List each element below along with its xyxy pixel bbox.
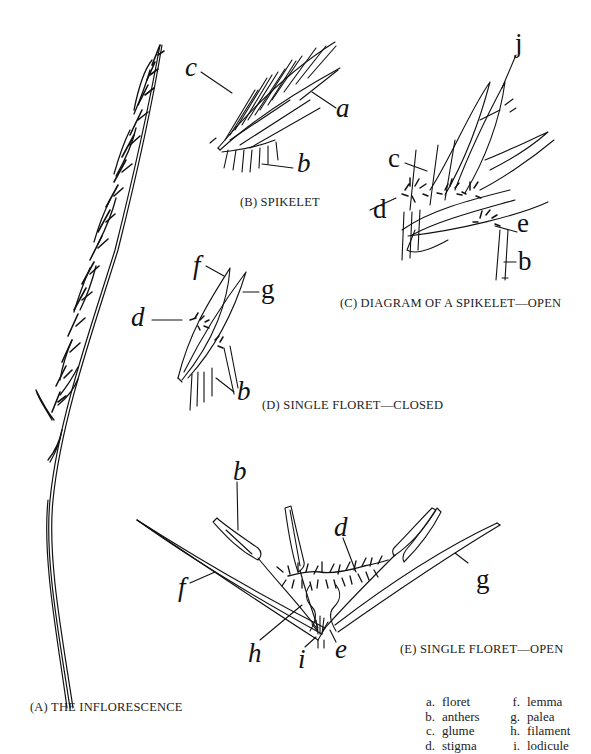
legend-item: c.glume — [423, 724, 513, 739]
legend-item: d.stigma — [423, 739, 513, 754]
caption-panel-e: (E) SINGLE FLORET—OPEN — [400, 642, 563, 657]
label-e-g: g — [476, 566, 490, 593]
caption-panel-a: (A) THE INFLORESCENCE — [30, 700, 183, 715]
legend-key: h. — [508, 724, 520, 739]
legend-item: g.palea — [508, 710, 591, 725]
closed-floret-leader-lines — [152, 266, 259, 392]
legend-term: palea — [527, 710, 554, 725]
legend-term: anthers — [442, 710, 480, 725]
label-c-d: d — [373, 196, 387, 223]
label-e-d: d — [334, 514, 348, 541]
legend-column-left: a.floret b.anthers c.glume d.stigma — [423, 695, 513, 753]
legend-term: lodicule — [527, 739, 569, 754]
open-floret-drawing — [137, 506, 500, 648]
legend-key: b. — [423, 710, 435, 725]
legend-key: i. — [508, 739, 520, 754]
label-e-b: b — [233, 458, 247, 485]
label-c-j: j — [515, 30, 523, 57]
legend-term: filament — [527, 724, 570, 739]
legend-key: d. — [423, 739, 435, 754]
caption-panel-d: (D) SINGLE FLORET—CLOSED — [262, 398, 443, 413]
caption-panel-b: (B) SPIKELET — [240, 195, 320, 210]
legend-term: lemma — [527, 695, 562, 710]
legend-key: a. — [423, 695, 435, 710]
legend-term: glume — [442, 724, 475, 739]
label-e-e: e — [335, 636, 347, 663]
legend-item: i.lodicule — [508, 739, 591, 754]
spikelet-drawing — [210, 42, 340, 172]
label-d-b: b — [237, 378, 251, 405]
open-floret-leader-lines — [190, 482, 468, 647]
legend-key: c. — [423, 724, 435, 739]
label-c-c: c — [388, 145, 400, 172]
legend-column-right: f.lemma g.palea h.filament i.lodicule — [508, 695, 591, 753]
label-c-b: b — [518, 248, 532, 275]
label-c-e: e — [517, 210, 529, 237]
label-d-g: g — [261, 276, 275, 303]
label-e-f: f — [178, 574, 186, 601]
label-b-c: c — [185, 54, 197, 81]
inflorescence-drawing — [36, 45, 164, 708]
legend-term: stigma — [442, 739, 477, 754]
label-e-h: h — [248, 640, 262, 667]
label-d-d: d — [131, 304, 145, 331]
legend-item: h.filament — [508, 724, 591, 739]
legend-term: floret — [442, 695, 470, 710]
label-b-a: a — [336, 95, 350, 122]
label-b-b: b — [297, 150, 311, 177]
legend-item: b.anthers — [423, 710, 513, 725]
label-d-f: f — [193, 252, 201, 279]
closed-floret-drawing — [178, 268, 246, 410]
legend-key: f. — [508, 695, 520, 710]
label-e-i: i — [298, 646, 306, 673]
legend-key: g. — [508, 710, 520, 725]
legend-item: a.floret — [423, 695, 513, 710]
legend-item: f.lemma — [508, 695, 591, 710]
caption-panel-c: (C) DIAGRAM OF A SPIKELET—OPEN — [340, 296, 561, 311]
illustration-canvas — [0, 0, 591, 754]
